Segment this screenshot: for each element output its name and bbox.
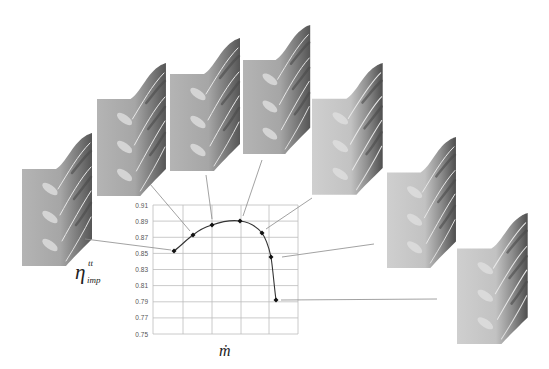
y-axis-label: η tt imp xyxy=(75,258,101,285)
data-point-3 xyxy=(210,223,215,228)
y-tick-0.79: 0.79 xyxy=(135,298,148,305)
leader-line-6 xyxy=(282,244,374,257)
leader-line-3 xyxy=(206,175,212,219)
y-tick-0.75: 0.75 xyxy=(135,331,148,338)
svg-text:ṁ: ṁ xyxy=(219,342,231,359)
svg-text:imp: imp xyxy=(87,275,101,285)
leader-line-1 xyxy=(85,239,171,250)
y-tick-0.85: 0.85 xyxy=(135,250,148,257)
blade-image-7 xyxy=(457,213,528,344)
leader-line-5 xyxy=(266,198,312,229)
y-tick-0.83: 0.83 xyxy=(135,266,148,273)
y-tick-0.87: 0.87 xyxy=(135,234,148,241)
chart-plot-area: 0.91 0.89 0.87 0.85 0.83 0.81 0.79 0.77 … xyxy=(75,202,298,360)
x-axis-label: ṁ xyxy=(219,342,231,359)
leader-line-4 xyxy=(243,160,262,216)
svg-text:tt: tt xyxy=(88,258,94,268)
efficiency-vs-massflow-figure: 0.91 0.89 0.87 0.85 0.83 0.81 0.79 0.77 … xyxy=(0,0,549,369)
y-tick-0.91: 0.91 xyxy=(135,202,148,209)
leader-line-2 xyxy=(150,184,190,231)
blade-image-3 xyxy=(170,38,240,171)
grid-lines xyxy=(153,205,298,334)
y-tick-0.77: 0.77 xyxy=(135,314,148,321)
data-point-4 xyxy=(238,219,243,224)
blade-image-2 xyxy=(97,63,166,196)
blade-image-5 xyxy=(312,63,383,195)
data-markers xyxy=(172,219,279,303)
blade-image-4 xyxy=(243,25,310,154)
blade-image-6 xyxy=(387,137,456,268)
svg-text:η: η xyxy=(75,260,85,284)
blade-image-1 xyxy=(22,133,92,266)
y-tick-0.89: 0.89 xyxy=(135,218,148,225)
leader-line-7 xyxy=(281,299,437,300)
y-tick-0.81: 0.81 xyxy=(135,282,148,289)
y-tick-labels: 0.91 0.89 0.87 0.85 0.83 0.81 0.79 0.77 … xyxy=(135,202,148,338)
